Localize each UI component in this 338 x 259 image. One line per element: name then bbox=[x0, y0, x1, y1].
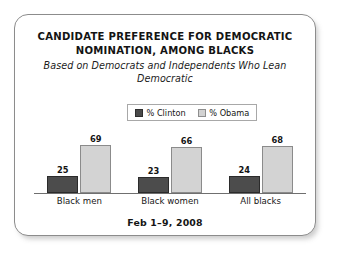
category-label: Black men bbox=[34, 196, 125, 206]
bar-group: 2366 bbox=[125, 130, 216, 193]
bar-wrapper: 25 bbox=[47, 130, 78, 193]
bar-wrapper: 23 bbox=[138, 130, 169, 193]
bar-wrapper: 24 bbox=[229, 130, 260, 193]
bar-groups: 256923662468 bbox=[34, 130, 306, 193]
legend-label-clinton: % Clinton bbox=[147, 108, 186, 118]
bar bbox=[80, 145, 111, 193]
bar bbox=[262, 146, 293, 193]
category-label: All blacks bbox=[215, 196, 306, 206]
bar bbox=[171, 147, 202, 193]
bar-wrapper: 66 bbox=[171, 130, 202, 193]
chart-footer-date: Feb 1–9, 2008 bbox=[15, 217, 315, 228]
chart-subtitle: Based on Democrats and Independents Who … bbox=[15, 59, 315, 85]
chart-title-line-1: CANDIDATE PREFERENCE FOR DEMOCRATIC bbox=[15, 30, 315, 44]
bar-value-label: 24 bbox=[238, 166, 250, 175]
bar-wrapper: 69 bbox=[80, 130, 111, 193]
bar bbox=[47, 176, 78, 193]
bar-group: 2569 bbox=[34, 130, 125, 193]
plot-area: 256923662468 bbox=[34, 130, 306, 194]
bar bbox=[138, 177, 169, 193]
bar bbox=[229, 176, 260, 193]
bar-value-label: 68 bbox=[271, 136, 283, 145]
bar-value-label: 25 bbox=[57, 166, 69, 175]
clinton-swatch-icon bbox=[135, 109, 143, 117]
chart-card: CANDIDATE PREFERENCE FOR DEMOCRATIC NOMI… bbox=[14, 14, 316, 236]
category-labels: Black menBlack womenAll blacks bbox=[34, 196, 306, 206]
legend-label-obama: % Obama bbox=[209, 108, 249, 118]
legend-item-obama: % Obama bbox=[198, 108, 250, 118]
bar-wrapper: 68 bbox=[262, 130, 293, 193]
chart-legend: % Clinton % Obama bbox=[127, 104, 257, 121]
bar-value-label: 69 bbox=[90, 135, 102, 144]
category-label: Black women bbox=[125, 196, 216, 206]
bar-value-label: 66 bbox=[181, 137, 193, 146]
obama-swatch-icon bbox=[198, 109, 206, 117]
bar-group: 2468 bbox=[215, 130, 306, 193]
bar-value-label: 23 bbox=[148, 167, 160, 176]
title-block: CANDIDATE PREFERENCE FOR DEMOCRATIC NOMI… bbox=[15, 30, 315, 85]
chart-title-line-2: NOMINATION, AMONG BLACKS bbox=[15, 44, 315, 58]
screenshot-root: CANDIDATE PREFERENCE FOR DEMOCRATIC NOMI… bbox=[0, 0, 338, 259]
legend-item-clinton: % Clinton bbox=[135, 108, 186, 118]
